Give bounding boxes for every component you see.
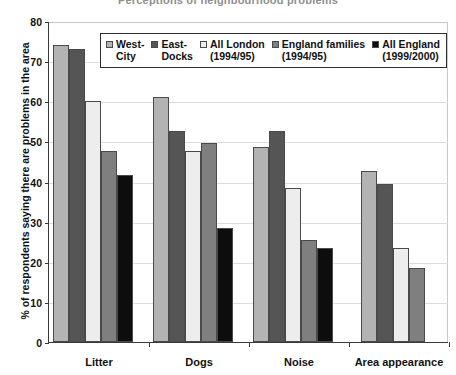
y-tick-mark — [45, 102, 49, 103]
bar-group — [153, 22, 233, 342]
y-tick-label: 40 — [30, 177, 42, 189]
y-tick-mark — [45, 62, 49, 63]
y-tick-label: 70 — [30, 56, 42, 68]
y-tick-label: 0 — [36, 337, 42, 349]
x-axis-separator — [349, 342, 350, 347]
chart-title: Perceptions of neighbourhood problems — [0, 0, 456, 6]
legend-item[interactable]: East- Docks — [151, 38, 193, 62]
legend-label: East- Docks — [161, 38, 193, 62]
y-tick-mark — [45, 303, 49, 304]
legend-item[interactable]: All London (1994/95) — [200, 38, 265, 62]
bar — [69, 49, 85, 342]
bar — [53, 45, 69, 342]
legend-item[interactable]: England families (1994/95) — [272, 38, 365, 62]
bar — [377, 184, 393, 342]
x-axis-separator — [249, 342, 250, 347]
y-tick-label: 80 — [30, 16, 42, 28]
chart-legend: West- CityEast- DocksAll London (1994/95… — [100, 33, 447, 68]
bar — [393, 248, 409, 342]
bar — [317, 248, 333, 342]
bar — [85, 101, 101, 342]
bar-group — [53, 22, 133, 342]
bar — [217, 228, 233, 342]
legend-item[interactable]: West- City — [106, 38, 144, 62]
bar-chart: Perceptions of neighbourhood problems % … — [0, 0, 456, 375]
x-tick-label: Area appearance — [355, 356, 444, 368]
legend-label: All London (1994/95) — [210, 38, 265, 62]
legend-label: England families (1994/95) — [282, 38, 365, 62]
y-tick-mark — [45, 343, 49, 344]
bar — [153, 97, 169, 342]
x-tick-label: Litter — [85, 356, 113, 368]
x-axis-separator — [149, 342, 150, 347]
y-tick-label: 20 — [30, 257, 42, 269]
x-tick-label: Noise — [284, 356, 314, 368]
legend-label: All England (1999/2000) — [382, 38, 440, 62]
legend-swatch-icon — [200, 41, 207, 48]
y-tick-mark — [45, 22, 49, 23]
bar-group — [253, 22, 333, 342]
y-tick-mark — [45, 223, 49, 224]
legend-label: West- City — [116, 38, 144, 62]
y-axis-title: % of respondents saying there are proble… — [19, 21, 31, 341]
x-axis-separator — [449, 342, 450, 347]
y-tick-mark — [45, 142, 49, 143]
x-tick-label: Dogs — [185, 356, 213, 368]
y-tick-label: 10 — [30, 297, 42, 309]
bar — [117, 175, 133, 342]
bar — [185, 151, 201, 342]
legend-item[interactable]: All England (1999/2000) — [372, 38, 440, 62]
bar — [101, 151, 117, 342]
bar — [285, 188, 301, 342]
y-tick-label: 50 — [30, 136, 42, 148]
legend-swatch-icon — [151, 41, 158, 48]
legend-swatch-icon — [272, 41, 279, 48]
y-tick-label: 30 — [30, 217, 42, 229]
y-tick-mark — [45, 263, 49, 264]
bar — [269, 131, 285, 342]
plot-area: 01020304050607080 LitterDogsNoiseArea ap… — [48, 22, 448, 343]
bar — [409, 268, 425, 342]
bar — [169, 131, 185, 342]
bar — [253, 147, 269, 342]
y-tick-mark — [45, 183, 49, 184]
legend-swatch-icon — [372, 41, 379, 48]
y-tick-label: 60 — [30, 96, 42, 108]
legend-swatch-icon — [106, 41, 113, 48]
bar-group — [361, 22, 425, 342]
bar — [301, 240, 317, 342]
bar — [201, 143, 217, 342]
bar — [361, 171, 377, 342]
